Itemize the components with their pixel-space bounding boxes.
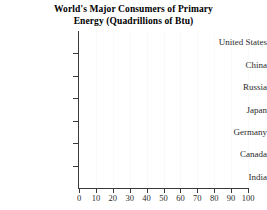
y-axis-category-label: India — [195, 172, 267, 182]
y-axis-category-label: China — [195, 60, 267, 70]
y-axis-tick — [73, 143, 79, 144]
gridline-vertical — [180, 31, 181, 188]
gridline-vertical — [147, 31, 148, 188]
y-axis-category-label: Japan — [195, 105, 267, 115]
chart-title: World's Major Consumers of Primary Energ… — [0, 3, 267, 27]
x-axis-tick-label: 100 — [233, 193, 263, 203]
y-axis-tick — [73, 98, 79, 99]
gridline-vertical — [113, 31, 114, 188]
y-axis-tick — [73, 166, 79, 167]
chart-container: World's Major Consumers of Primary Energ… — [0, 0, 267, 210]
gridline-vertical — [130, 31, 131, 188]
y-axis-category-label: Russia — [195, 82, 267, 92]
y-axis-tick — [73, 121, 79, 122]
y-axis-category-label: United States — [195, 37, 267, 47]
y-axis-category-label: Canada — [195, 149, 267, 159]
y-axis-category-label: Germany — [195, 127, 267, 137]
gridline-vertical — [164, 31, 165, 188]
gridline-vertical — [96, 31, 97, 188]
y-axis-tick — [73, 76, 79, 77]
chart-title-line-1: World's Major Consumers of Primary — [0, 3, 267, 15]
chart-title-line-2: Energy (Quadrillions of Btu) — [0, 15, 267, 27]
y-axis-tick — [73, 53, 79, 54]
